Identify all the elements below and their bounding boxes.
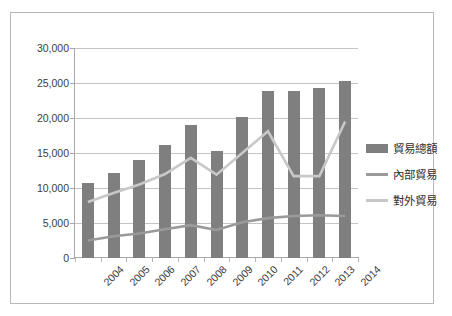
line-series [88,215,345,240]
y-axis-labels: 05,00010,00015,00020,00025,00030,000 [11,13,69,316]
line-series-layer [75,48,358,258]
x-tick-label: 2008 [204,263,229,288]
x-tick [358,258,359,262]
x-tick-label: 2011 [281,263,305,287]
x-tick-label: 2005 [126,263,151,288]
y-tick-label: 30,000 [37,42,69,54]
y-tick-label: 5,000 [43,217,69,229]
x-tick-label: 2009 [229,263,254,288]
x-tick-label: 2010 [255,263,280,288]
y-tick-label: 15,000 [37,147,69,159]
x-tick [204,258,205,262]
x-tick [152,258,153,262]
x-tick [126,258,127,262]
x-tick-label: 2006 [152,263,177,288]
x-tick [307,258,308,262]
y-tick-label: 25,000 [37,77,69,89]
chart-legend: 貿易總額內部貿易對外貿易 [366,135,452,213]
legend-label: 內部貿易 [393,166,437,182]
plot-area [75,48,358,258]
y-tick-label: 20,000 [37,112,69,124]
x-tick [281,258,282,262]
legend-item[interactable]: 內部貿易 [366,161,452,187]
y-tick-label: 10,000 [37,182,69,194]
x-tick [75,258,76,262]
x-tick [229,258,230,262]
legend-bar-swatch-icon [366,144,388,153]
x-tick-label: 2013 [332,263,357,288]
legend-label: 對外貿易 [393,192,437,208]
legend-label: 貿易總額 [393,140,437,156]
x-tick [255,258,256,262]
legend-item[interactable]: 貿易總額 [366,135,452,161]
y-tick-label: 0 [63,252,69,264]
x-tick [178,258,179,262]
x-tick-label: 2012 [307,263,332,288]
line-series [88,122,345,203]
x-tick [332,258,333,262]
x-tick [101,258,102,262]
legend-item[interactable]: 對外貿易 [366,187,452,213]
chart-frame: 05,00010,00015,00020,00025,00030,000 200… [10,12,434,304]
legend-line-swatch-icon [366,199,388,202]
legend-line-swatch-icon [366,173,388,176]
x-tick-label: 2007 [178,263,203,288]
x-tick-label: 2014 [358,263,383,288]
x-tick-label: 2004 [101,263,126,288]
